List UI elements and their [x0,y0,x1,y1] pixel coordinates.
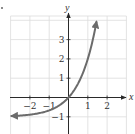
x-axis-label: x [128,91,134,102]
x-tick-label: −2 [23,101,36,111]
y-axis-label: y [64,2,70,13]
y-tick-label: 3 [59,35,65,45]
x-tick-label: 2 [104,101,110,111]
x-tick-label: 1 [85,101,91,111]
y-tick-label: 1 [59,73,65,83]
y-tick-label: −1 [51,112,64,122]
exponential-graph: −2−112321−1 x y [0,0,135,134]
y-tick-label: 2 [59,54,65,64]
